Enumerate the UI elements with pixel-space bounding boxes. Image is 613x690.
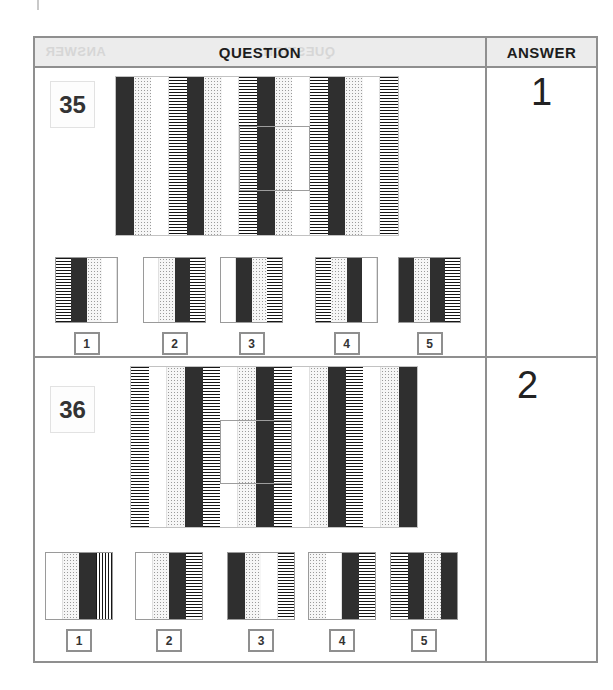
option-3: 3 [220, 257, 283, 355]
question-35-pattern [115, 76, 399, 236]
option-1-number-box: 1 [66, 629, 92, 652]
dark-stripe [347, 258, 362, 322]
option-1: 1 [45, 552, 113, 652]
hatch-h-stripe [359, 553, 376, 619]
hatch-h-stripe [203, 367, 221, 527]
question-35-row: 35 12345 1 [35, 68, 596, 356]
answer-header-label: ANSWER [507, 44, 577, 61]
option-5: 5 [398, 257, 461, 355]
white-stripe [136, 553, 153, 619]
option-2-pattern [143, 257, 206, 323]
dark-stripe [430, 258, 445, 322]
table-header-row: ANSWER QUESTION QUESTION ANSWER [35, 38, 596, 68]
option-3-pattern [227, 552, 295, 620]
option-1-pattern [45, 552, 113, 620]
white-stripe [221, 258, 236, 322]
white-stripe [46, 553, 63, 619]
question-36-number: 36 [59, 396, 86, 424]
dotted-stripe [204, 77, 222, 235]
dark-stripe [236, 258, 251, 322]
cutout-outline [220, 420, 292, 484]
question-header-label: QUESTION [219, 44, 301, 61]
option-5-number-box: 5 [411, 629, 437, 652]
dark-stripe [328, 367, 346, 527]
question-36-answer: 2 [517, 366, 538, 404]
dotted-stripe [159, 258, 174, 322]
dotted-stripe [331, 258, 346, 322]
dark-stripe [187, 77, 205, 235]
question-36-number-box: 36 [50, 386, 95, 433]
answer-column-header: ANSWER [487, 38, 596, 66]
option-1-number-box: 1 [74, 332, 100, 355]
white-stripe [149, 367, 167, 527]
hatch-h-stripe [445, 258, 460, 322]
option-4-number-box: 4 [329, 629, 355, 652]
page-corner-mark [37, 0, 39, 10]
dotted-stripe [134, 77, 152, 235]
question-36-cell: 36 12345 [35, 358, 487, 661]
option-4-number-box: 4 [334, 332, 360, 355]
dotted-stripe [167, 367, 185, 527]
dark-stripe [328, 77, 346, 235]
dark-stripe [116, 77, 134, 235]
question-36-row: 36 12345 2 [35, 356, 596, 661]
hatch-h-stripe [56, 258, 71, 322]
question-column-header: ANSWER QUESTION QUESTION [35, 38, 487, 66]
hatch-h-stripe [278, 553, 295, 619]
dark-stripe [79, 553, 96, 619]
dotted-stripe [63, 553, 80, 619]
hatch-h-stripe [186, 553, 203, 619]
hatch-h-stripe [346, 367, 364, 527]
dark-stripe [228, 553, 245, 619]
question-36-answer-cell: 2 [487, 358, 596, 661]
dotted-stripe [245, 553, 262, 619]
cutout-outline [239, 126, 310, 191]
dark-stripe [169, 553, 186, 619]
question-35-answer: 1 [531, 73, 552, 111]
option-1-pattern [55, 257, 118, 323]
option-5: 5 [390, 552, 458, 652]
white-stripe [261, 553, 278, 619]
option-2: 2 [135, 552, 203, 652]
option-5-number-box: 5 [417, 332, 443, 355]
option-1: 1 [55, 257, 118, 355]
dotted-stripe [381, 367, 399, 527]
dotted-stripe [309, 553, 326, 619]
hatch-h-stripe [131, 367, 149, 527]
dark-stripe [441, 553, 458, 619]
dotted-stripe [252, 258, 267, 322]
question-35-number: 35 [59, 91, 86, 119]
white-stripe [102, 258, 117, 322]
hatch-h-stripe [316, 258, 331, 322]
ghost-printthrough-answer: ANSWER [45, 44, 106, 59]
white-stripe [151, 77, 169, 235]
option-5-pattern [390, 552, 458, 620]
dark-stripe [399, 367, 417, 527]
question-35-answer-cell: 1 [487, 68, 596, 356]
dotted-stripe [424, 553, 441, 619]
option-3: 3 [227, 552, 295, 652]
dotted-stripe [414, 258, 429, 322]
white-stripe [144, 258, 159, 322]
scanned-test-page: ANSWER QUESTION QUESTION ANSWER 35 12345… [0, 0, 613, 690]
option-3-number-box: 3 [239, 332, 265, 355]
option-4-pattern [315, 257, 378, 323]
option-2-number-box: 2 [162, 332, 188, 355]
question-35-cell: 35 12345 [35, 68, 487, 356]
white-stripe [292, 367, 310, 527]
hatch-h-stripe [190, 258, 205, 322]
dark-stripe [408, 553, 425, 619]
white-stripe [326, 553, 343, 619]
option-2: 2 [143, 257, 206, 355]
option-4: 4 [315, 257, 378, 355]
question-answer-table: ANSWER QUESTION QUESTION ANSWER 35 12345… [33, 36, 598, 663]
dark-stripe [185, 367, 203, 527]
hatch-h-stripe [267, 258, 282, 322]
dark-stripe [342, 553, 359, 619]
hatch-h-stripe [169, 77, 187, 235]
white-stripe [363, 367, 381, 527]
option-4-pattern [308, 552, 376, 620]
hatch-h-stripe [391, 553, 408, 619]
dark-stripe [71, 258, 86, 322]
option-5-pattern [398, 257, 461, 323]
